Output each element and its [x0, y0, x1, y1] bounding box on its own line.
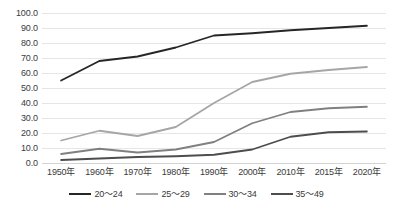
legend-item[interactable]: 25～29: [136, 189, 189, 199]
y-axis-tick-label: 20.0: [21, 129, 38, 138]
legend-label: 20～24: [94, 189, 122, 199]
series-line: [61, 107, 367, 154]
legend-label: 35～49: [296, 189, 324, 199]
y-axis-tick-label: 80.0: [21, 39, 38, 48]
y-axis-tick-label: 10.0: [21, 144, 38, 153]
series-line: [61, 26, 367, 81]
x-axis: 1950年1960年1970年1980年1990年2000年2010年2015年…: [42, 166, 386, 182]
x-axis-tick-label: 2015年: [310, 166, 348, 182]
series-line: [61, 67, 367, 141]
y-axis-tick-label: 60.0: [21, 69, 38, 78]
gridline: [42, 163, 386, 164]
x-axis-tick-label: 1950年: [42, 166, 80, 182]
line-chart: 0.010.020.030.040.050.060.070.080.090.01…: [0, 0, 393, 206]
legend-label: 25～29: [161, 189, 189, 199]
y-axis-tick-label: 0.0: [26, 159, 38, 168]
legend-label: 30～34: [229, 189, 257, 199]
legend-item[interactable]: 35～49: [271, 189, 324, 199]
y-axis-tick-label: 30.0: [21, 114, 38, 123]
plot-area: [42, 13, 386, 163]
x-axis-tick-label: 2020年: [348, 166, 386, 182]
y-axis: 0.010.020.030.040.050.060.070.080.090.01…: [0, 0, 40, 175]
legend-line-swatch: [69, 193, 91, 195]
y-axis-tick-label: 90.0: [21, 24, 38, 33]
legend: 20～2425～2930～3435～49: [0, 186, 393, 202]
legend-item[interactable]: 20～24: [69, 189, 122, 199]
legend-line-swatch: [204, 193, 226, 195]
legend-line-swatch: [136, 193, 158, 195]
y-axis-tick-label: 50.0: [21, 84, 38, 93]
x-axis-tick-label: 2010年: [271, 166, 309, 182]
plot-wrapper: 0.010.020.030.040.050.060.070.080.090.01…: [0, 0, 393, 175]
series-layer: [42, 13, 386, 163]
x-axis-tick-label: 1980年: [157, 166, 195, 182]
y-axis-tick-label: 70.0: [21, 54, 38, 63]
legend-item[interactable]: 30～34: [204, 189, 257, 199]
y-axis-tick-label: 100.0: [16, 9, 38, 18]
x-axis-tick-label: 1970年: [118, 166, 156, 182]
series-line: [61, 132, 367, 161]
legend-line-swatch: [271, 193, 293, 195]
y-axis-tick-label: 40.0: [21, 99, 38, 108]
x-axis-tick-label: 1960年: [80, 166, 118, 182]
x-axis-tick-label: 1990年: [195, 166, 233, 182]
x-axis-tick-label: 2000年: [233, 166, 271, 182]
